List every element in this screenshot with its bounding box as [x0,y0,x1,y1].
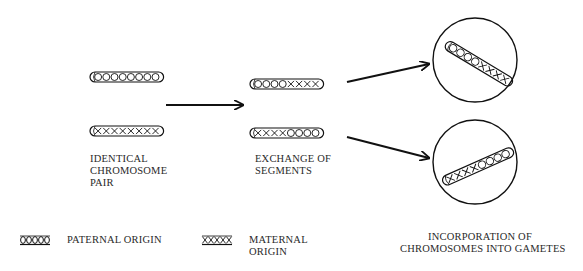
label-line: INCORPORATION OF [400,231,560,243]
arrow-exchange-to-gamete-2 [347,137,429,158]
gamete-circle-1 [433,18,517,102]
label-exchange: EXCHANGE OF SEGMENTS [255,153,331,177]
chromosome-body [441,146,515,186]
label-line: ORIGIN [249,246,308,258]
gamete-circle-2 [433,120,517,204]
arrow-exchange-to-gamete-1 [347,64,429,82]
legend-maternal-symbol [202,236,232,245]
chromosome-maternal [90,126,164,136]
chromosome-body [250,79,324,89]
chromosome-body [443,40,514,88]
label-identical-pair: IDENTICAL CHROMOSOME PAIR [90,153,167,189]
label-line: SEGMENTS [255,165,331,177]
chromosome-body [250,128,324,138]
label-line: MATERNAL [249,234,308,246]
legend-maternal-label: MATERNAL ORIGIN [249,234,308,258]
chromosome-body [90,72,164,82]
chromosome-recombinant-1 [250,79,324,89]
label-line: PATERNAL ORIGIN [67,234,162,246]
legend-paternal-label: PATERNAL ORIGIN [67,234,162,246]
chromosome-recombinant-2 [250,128,324,138]
chromosome-paternal [90,72,164,82]
label-line: PAIR [90,177,167,189]
label-gametes: INCORPORATION OF CHROMOSOMES INTO GAMETE… [400,231,560,255]
label-line: CHROMOSOME [90,165,167,177]
label-line: EXCHANGE OF [255,153,331,165]
legend-paternal-symbol [20,236,50,245]
chromosome-body [90,126,164,136]
label-line: IDENTICAL [90,153,167,165]
label-line: CHROMOSOMES INTO GAMETES [400,243,560,255]
